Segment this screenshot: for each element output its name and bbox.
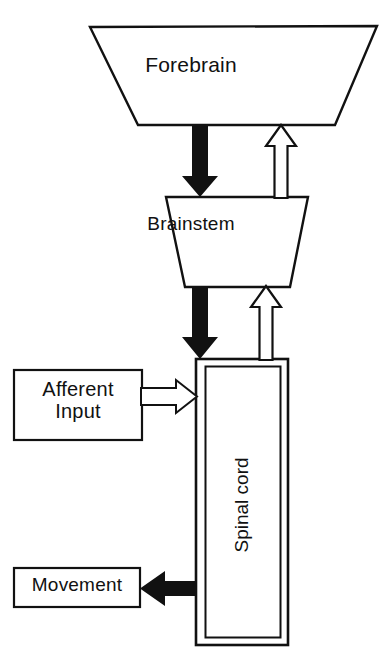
arrow-brainstem-to-spinal-cord: [182, 286, 218, 359]
spinal-cord-label: Spinal cord: [231, 405, 253, 605]
forebrain-label: Forebrain: [0, 53, 382, 77]
afferent-input-label: Afferent Input: [14, 378, 142, 423]
arrow-brainstem-to-forebrain: [266, 125, 296, 198]
arrow-spinal-cord-to-movement: [140, 571, 197, 606]
arrow-afferent-input-to-spinal-cord: [141, 380, 197, 413]
arrow-forebrain-to-brainstem: [182, 124, 218, 197]
arrow-spinal-cord-to-brainstem: [251, 286, 281, 360]
brainstem-shape: [166, 197, 308, 287]
movement-label: Movement: [14, 574, 140, 595]
diagram-vector-layer: [0, 0, 382, 661]
brainstem-label: Brainstem: [0, 213, 382, 234]
diagram-canvas: Forebrain Brainstem Spinal cord Afferent…: [0, 0, 382, 661]
